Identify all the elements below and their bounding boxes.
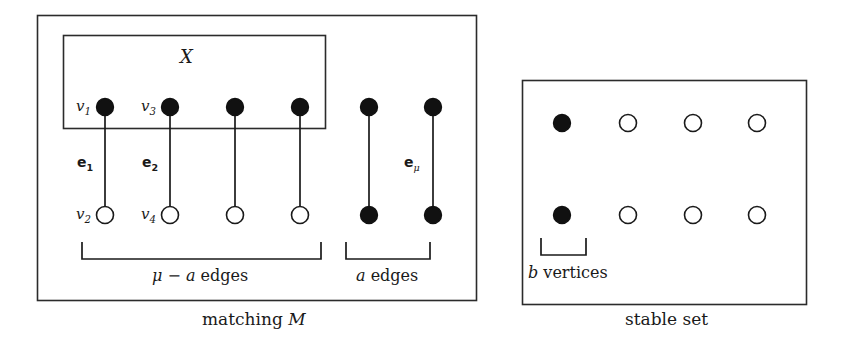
edge-label-e2-sub: 2 — [152, 162, 159, 173]
matching-stable-set-figure: X v1 v3 v2 v4 e1 e2 eμ μ − a edges a edg… — [0, 0, 841, 347]
matching-brackets — [82, 242, 430, 259]
bracket-label-b-vertices: b vertices — [528, 265, 608, 281]
vertex-bottom-6 — [425, 207, 442, 224]
stable-vertex-top-4 — [749, 115, 766, 132]
edge-label-e1: e1 — [77, 155, 93, 172]
stable-set-caption: stable set — [625, 311, 708, 328]
edge-label-e2: e2 — [142, 155, 158, 172]
vertex-bottom-3 — [227, 207, 244, 224]
vertex-label-v2: v2 — [76, 207, 91, 225]
vertex-top-6 — [425, 99, 442, 116]
vertex-v1 — [97, 99, 114, 116]
stable-vertex-top-3 — [685, 115, 702, 132]
bracket-a-edges — [346, 242, 430, 259]
vertex-v3 — [162, 99, 179, 116]
vertex-top-3 — [227, 99, 244, 116]
bracket-label-a-edges: a edges — [356, 268, 418, 284]
vertex-top-5 — [361, 99, 378, 116]
stable-vertex-top-2 — [620, 115, 637, 132]
edge-label-emu-sub: μ — [414, 162, 420, 173]
figure-canvas — [0, 0, 841, 347]
vertex-label-v4: v4 — [141, 207, 156, 225]
vertex-label-v1-sub: 1 — [84, 106, 90, 117]
stable-vertex-bottom-2 — [620, 207, 637, 224]
stable-vertex-top-1 — [554, 115, 571, 132]
vertex-label-v1: v1 — [76, 99, 91, 117]
vertex-label-v2-sub: 2 — [84, 214, 90, 225]
vertex-label-v4-sub: 4 — [149, 214, 155, 225]
bracket-mu-minus-a — [82, 242, 321, 259]
bracket-b-vertices — [541, 238, 586, 255]
stable-set-vertices — [554, 115, 766, 224]
vertex-v2 — [97, 207, 114, 224]
vertex-v4 — [162, 207, 179, 224]
vertex-label-v3: v3 — [141, 99, 156, 117]
matching-caption: matching M — [202, 311, 306, 328]
bracket-label-mu-minus-a: μ − a edges — [152, 268, 248, 284]
vertex-label-v3-sub: 3 — [149, 106, 155, 117]
stable-vertex-bottom-4 — [749, 207, 766, 224]
stable-vertex-bottom-1 — [554, 207, 571, 224]
vertex-bottom-4 — [292, 207, 309, 224]
vertex-bottom-5 — [361, 207, 378, 224]
vertex-top-4 — [292, 99, 309, 116]
edge-label-emu: eμ — [404, 155, 420, 172]
edge-label-e1-sub: 1 — [87, 162, 94, 173]
stable-vertex-bottom-3 — [685, 207, 702, 224]
x-set-label: X — [180, 48, 193, 66]
